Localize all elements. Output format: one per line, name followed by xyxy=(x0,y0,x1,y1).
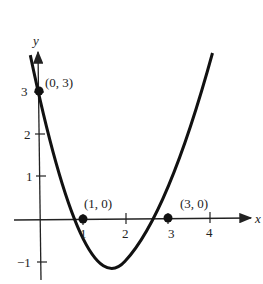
x-axis xyxy=(14,218,251,220)
point-1-0 xyxy=(79,215,88,224)
point-label-3-0: (3, 0) xyxy=(180,196,208,211)
x-tick-label-3: 3 xyxy=(168,226,175,241)
x-tick-label-1: 1 xyxy=(80,226,87,241)
y-tick-label-1: 1 xyxy=(26,169,33,184)
parabola-graph: y x (0, 3) (1, 0) (3, 0) 1 2 3 4 3 2 1 −… xyxy=(0,0,263,284)
x-tick-label-2: 2 xyxy=(122,226,129,241)
point-0-3 xyxy=(35,87,44,96)
point-3-0 xyxy=(164,214,173,223)
y-tick-label-neg1: −1 xyxy=(17,255,31,270)
y-tick-label-2: 2 xyxy=(24,127,31,142)
point-label-0-3: (0, 3) xyxy=(45,75,73,90)
x-tick-label-4: 4 xyxy=(206,225,213,240)
x-axis-label: x xyxy=(254,211,261,226)
y-axis-label: y xyxy=(31,33,39,48)
y-tick-label-3: 3 xyxy=(21,84,28,99)
point-label-1-0: (1, 0) xyxy=(84,196,112,211)
